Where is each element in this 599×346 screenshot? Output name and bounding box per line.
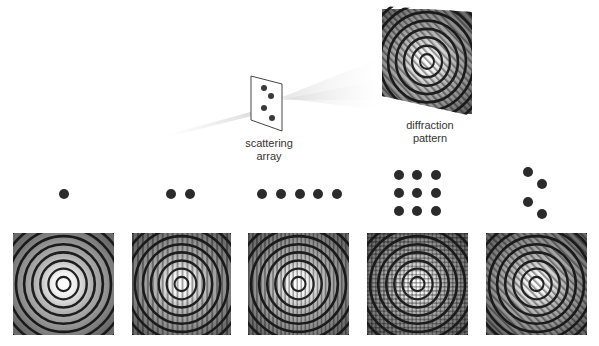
scatter-dot — [332, 189, 342, 199]
diffraction-pattern-zigzag4 — [486, 233, 587, 335]
scatter-dot — [59, 189, 69, 199]
scatter-dot — [431, 170, 441, 180]
scatter-dot — [431, 188, 441, 198]
diffraction-pattern-row5 — [248, 233, 349, 335]
scattering-array-plate — [248, 74, 288, 134]
diffraction-pattern-pair — [132, 233, 231, 335]
scatter-dot — [394, 206, 404, 216]
scatter-dot — [276, 189, 286, 199]
diffraction-pattern-label: diffraction pattern — [390, 119, 470, 145]
scatter-dot — [412, 188, 422, 198]
scatter-dot — [537, 179, 547, 189]
scatter-dot — [537, 209, 547, 219]
scatter-dot — [523, 197, 533, 207]
scatter-dot — [313, 189, 323, 199]
scatter-dot — [257, 189, 267, 199]
scattering-array-label: scattering array — [238, 137, 300, 163]
scatter-dot — [185, 189, 195, 199]
diffraction-pattern-single — [13, 233, 114, 335]
scatter-dot — [166, 189, 176, 199]
scatter-dot — [412, 206, 422, 216]
scatter-dot — [431, 206, 441, 216]
scatter-dot — [394, 170, 404, 180]
scatter-dot — [412, 170, 422, 180]
scatter-dot — [394, 188, 404, 198]
diffraction-pattern-screen — [382, 6, 472, 116]
scatter-dot — [295, 189, 305, 199]
scatter-dot — [523, 167, 533, 177]
diffraction-pattern-grid3x3 — [367, 233, 468, 335]
